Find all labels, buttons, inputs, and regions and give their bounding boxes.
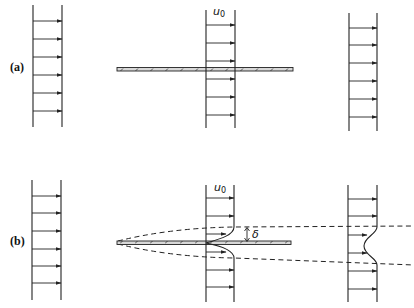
boundary-layer-thickness-indicator: δ — [245, 228, 260, 242]
boundary-layer-edge-upper — [118, 226, 414, 241]
upstream-velocity-profile-b — [32, 180, 61, 300]
freestream-velocity-label-b: u0 — [214, 181, 226, 195]
boundary-layer-edge-lower — [118, 244, 414, 265]
wake-velocity-profile-b — [348, 185, 377, 302]
delta-label: δ — [252, 228, 259, 241]
freestream-velocity-label-a: u0 — [213, 5, 225, 19]
upstream-velocity-profile-a — [33, 5, 62, 127]
panel-a: (a) u0 — [10, 5, 377, 131]
panel-b: (b) u0 — [10, 180, 414, 302]
flat-plate-boundary-layer-diagram: (a) u0 — [0, 0, 414, 308]
downstream-velocity-profile-a — [349, 13, 377, 131]
flat-plate-a — [117, 68, 293, 72]
panel-b-label: (b) — [10, 234, 25, 248]
flat-plate-b — [117, 241, 291, 245]
panel-a-label: (a) — [10, 60, 24, 74]
